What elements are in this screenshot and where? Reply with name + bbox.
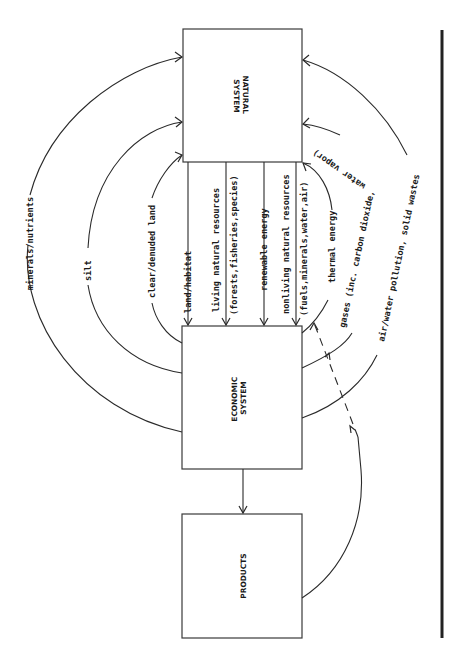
label-land-habitat: land/habitat [183,251,193,313]
flow-economic-to-products [239,469,247,513]
flow-silt [88,117,182,373]
label-gases: gases (inc. carbon dioxide, [337,190,376,329]
arrowhead-icon [350,426,355,433]
natural-system-label-1: NATURAL [241,75,250,114]
arrowhead-icon [303,118,310,128]
economy-environment-flow-diagram: NATURAL SYSTEM ECONOMIC SYSTEM PRODUCTS … [0,0,449,651]
svg-text:NATURAL SYSTEM: NATURAL SYSTEM [232,75,250,116]
flow-minerals-nutrients [27,52,182,432]
economic-system-label-2: SYSTEM [239,381,248,414]
label-water-vapor: water vapor) [311,148,368,192]
label-nonliving-resources-examples: (fuels,minerals,water,air) [299,181,309,316]
label-nonliving-natural-resources: nonliving natural resources [281,174,291,314]
page-margin-bar [441,30,444,638]
products-node: PRODUCTS [182,514,302,638]
label-minerals-nutrients: minerals/nutrients [25,197,35,290]
flow-air-water-pollution [302,55,407,418]
svg-text:ECONOMIC SYSTEM: ECONOMIC SYSTEM [230,374,248,421]
label-renewable-energy: renewable energy [259,208,269,291]
svg-text:PRODUCTS: PRODUCTS [239,553,248,598]
natural-system-node: NATURAL SYSTEM [183,29,302,162]
label-living-natural-resources: living natural resources [211,188,221,312]
label-silt: silt [83,260,93,281]
natural-system-label-2: SYSTEM [232,79,241,112]
label-thermal-energy: thermal energy [327,211,337,283]
label-air-water-pollution: air/water pollution, solid wastes [376,173,421,342]
products-label: PRODUCTS [239,553,248,598]
economic-system-node: ECONOMIC SYSTEM [182,326,302,469]
economic-system-label-1: ECONOMIC [230,377,239,422]
label-clear-denuded-land: clear/denuded land [147,205,157,298]
label-living-resources-examples: (forests,fisheries,species) [229,175,239,315]
